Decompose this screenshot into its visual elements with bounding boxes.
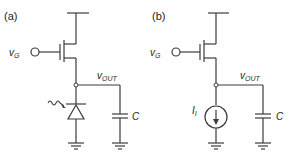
current-source-icon — [205, 106, 227, 128]
ground-icon — [208, 143, 224, 149]
nmos-transistor — [39, 40, 76, 62]
panel-b-label: (b) — [152, 10, 165, 22]
panel-b: (b) vG vOUT C II — [150, 10, 284, 149]
ground-icon — [112, 143, 128, 149]
capacitor-label: C — [276, 111, 284, 122]
gate-terminal-icon — [172, 48, 180, 56]
ground-icon — [68, 143, 84, 149]
panel-a-label: (a) — [4, 10, 17, 22]
output-label: vOUT — [97, 70, 118, 82]
panel-a: (a) vG vOUT C — [4, 10, 140, 149]
capacitor-label: C — [132, 111, 140, 122]
gate-label: vG — [150, 47, 161, 59]
light-wave-icon — [48, 101, 64, 106]
current-source-label: II — [192, 105, 197, 117]
capacitor — [112, 114, 128, 118]
gate-terminal-icon — [31, 48, 39, 56]
circuit-diagram: (a) vG vOUT C — [0, 0, 296, 157]
output-label: vOUT — [240, 70, 261, 82]
gate-label: vG — [9, 47, 20, 59]
output-node — [74, 83, 78, 87]
output-node — [214, 83, 218, 87]
ground-icon — [255, 143, 271, 149]
nmos-transistor — [180, 40, 216, 62]
capacitor — [255, 114, 271, 118]
photodiode-icon — [48, 101, 86, 119]
